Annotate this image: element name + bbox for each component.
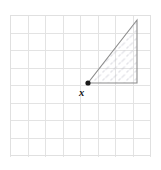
figure-canvas: x <box>0 0 161 170</box>
geometry-figure: x <box>0 0 161 170</box>
point-x-label: x <box>78 87 84 98</box>
point-x-marker <box>85 80 90 85</box>
